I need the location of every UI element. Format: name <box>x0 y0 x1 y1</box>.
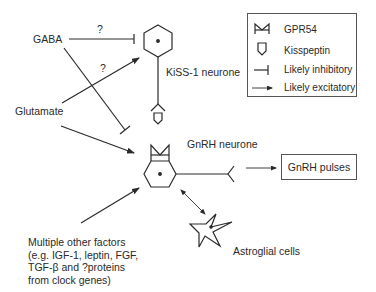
gnrh-neurone-cell <box>144 145 234 187</box>
gnrh-neurone-label: GnRH neurone <box>187 138 258 151</box>
other-factors-line: Multiple other factors <box>28 236 138 249</box>
gnrh-pulses-box: GnRH pulses <box>281 154 357 180</box>
glutamate-label: Glutamate <box>15 105 63 118</box>
other-factors-line: from clock genes) <box>28 274 138 287</box>
gnrh-pulses-label: GnRH pulses <box>288 161 350 173</box>
astroglial-cell <box>190 214 232 247</box>
gnrh-regulation-diagram: GABA ? ? Glutamate KiSS-1 neurone GnRH n… <box>0 0 376 292</box>
other-factors-line: TGF-β and ?proteins <box>28 261 138 274</box>
legend-item-excitatory: Likely excitatory <box>284 82 355 93</box>
legend: GPR54 Kisspeptin Likely inhibitory Likel… <box>247 13 357 97</box>
kiss1-neurone-label: KiSS-1 neurone <box>166 66 240 79</box>
astroglial-cells-label: Astroglial cells <box>233 245 300 258</box>
legend-item-gpr54: GPR54 <box>284 24 317 35</box>
legend-item-kisspeptin: Kisspeptin <box>284 45 330 56</box>
legend-item-inhibitory: Likely inhibitory <box>284 64 352 75</box>
glutamate-question-mark: ? <box>100 62 106 75</box>
gaba-label: GABA <box>33 33 62 46</box>
other-factors-label: Multiple other factors (e.g. IGF-1, lept… <box>28 236 138 286</box>
other-factors-line: (e.g. IGF-1, leptin, FGF, <box>28 249 138 262</box>
gaba-question-mark: ? <box>97 23 103 36</box>
